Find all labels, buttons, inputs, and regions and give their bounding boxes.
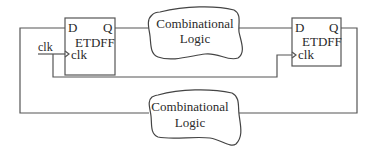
- logic-top-line2: Logic: [180, 31, 211, 46]
- flipflop-2: D Q ETDFF clk: [292, 18, 342, 66]
- logic-top-line1: Combinational: [156, 16, 234, 31]
- ff2-d-label: D: [295, 20, 304, 35]
- combinational-logic-top: Combinational Logic: [148, 7, 242, 59]
- ff1-clk-label: clk: [71, 47, 87, 62]
- ff1-d-label: D: [68, 20, 77, 35]
- circuit-diagram: D Q ETDFF clk clk D Q ETDFF clk Combinat…: [0, 0, 377, 154]
- logic-bottom-line1: Combinational: [151, 99, 229, 114]
- ff2-clk-label: clk: [298, 47, 314, 62]
- ff1-q-label: Q: [103, 20, 113, 35]
- logic-bottom-line2: Logic: [175, 115, 206, 130]
- combinational-logic-bottom: Combinational Logic: [149, 90, 241, 145]
- flipflop-1: D Q ETDFF clk: [65, 18, 115, 75]
- clk-input-label: clk: [38, 40, 53, 54]
- ff2-q-label: Q: [329, 20, 339, 35]
